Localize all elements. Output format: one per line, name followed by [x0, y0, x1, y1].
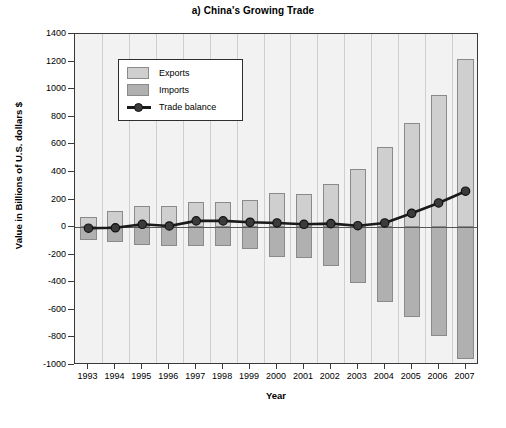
- legend-item-exports: Exports: [127, 65, 239, 81]
- bar-export: [269, 193, 285, 227]
- bar-import: [161, 227, 177, 246]
- bar-export: [431, 95, 447, 227]
- bar-import: [107, 227, 123, 242]
- bar-import: [296, 227, 312, 258]
- bar-export: [242, 200, 258, 227]
- x-tick-mark: [276, 364, 277, 369]
- x-tick-mark: [195, 364, 196, 369]
- y-axis-tick-labels: 1400120010008006004002000-200-400-600-80…: [28, 0, 66, 428]
- x-tick-mark: [168, 364, 169, 369]
- x-tick-mark: [249, 364, 250, 369]
- bar-import: [431, 227, 447, 336]
- bar-export: [350, 169, 366, 227]
- y-tick-mark: [68, 364, 74, 365]
- bar-export: [134, 206, 150, 227]
- y-tick-label: 1200: [32, 56, 66, 65]
- x-tick-mark: [384, 364, 385, 369]
- bar-export: [323, 184, 339, 227]
- legend-swatch-imports-icon: [127, 84, 149, 96]
- y-tick-label: 800: [32, 111, 66, 120]
- gridline-vertical: [452, 34, 453, 363]
- y-tick-label: 0: [32, 222, 66, 231]
- y-tick-label: 1000: [32, 84, 66, 93]
- x-tick-label: 2007: [445, 372, 485, 381]
- y-tick-label: 200: [32, 194, 66, 203]
- bar-import: [215, 227, 231, 246]
- bar-import: [404, 227, 420, 317]
- bar-export: [80, 217, 96, 227]
- bar-import: [134, 227, 150, 245]
- legend: Exports Imports Trade balance: [118, 59, 243, 121]
- x-tick-mark: [357, 364, 358, 369]
- x-tick-mark: [438, 364, 439, 369]
- y-tick-label: -600: [32, 304, 66, 313]
- y-tick-label: 1400: [32, 29, 66, 38]
- bar-export: [296, 194, 312, 227]
- y-tick-label: -1000: [32, 360, 66, 369]
- x-tick-mark: [303, 364, 304, 369]
- bar-import: [377, 227, 393, 302]
- bar-export: [161, 206, 177, 227]
- bar-import: [242, 227, 258, 249]
- y-axis-title: Value in Billions of U.S. dollars $: [13, 76, 24, 276]
- gridline-vertical: [317, 34, 318, 363]
- x-tick-mark: [141, 364, 142, 369]
- gridline-vertical: [290, 34, 291, 363]
- bar-export: [377, 147, 393, 227]
- legend-item-trade-balance: Trade balance: [127, 99, 239, 115]
- chart-root: a) China's Growing Trade Value in Billio…: [0, 0, 506, 428]
- chart-title: a) China's Growing Trade: [0, 5, 506, 16]
- x-tick-mark: [411, 364, 412, 369]
- bar-import: [350, 227, 366, 283]
- gridline-vertical: [264, 34, 265, 363]
- x-tick-mark: [222, 364, 223, 369]
- x-axis-title: Year: [74, 390, 478, 401]
- y-tick-label: 600: [32, 139, 66, 148]
- gridline-vertical: [398, 34, 399, 363]
- gridline-vertical: [344, 34, 345, 363]
- gridline-vertical: [425, 34, 426, 363]
- bar-export: [404, 123, 420, 227]
- bar-export: [457, 59, 473, 227]
- y-tick-label: 400: [32, 166, 66, 175]
- bar-import: [269, 227, 285, 257]
- bar-export: [215, 202, 231, 228]
- y-tick-label: -200: [32, 249, 66, 258]
- bar-import: [457, 227, 473, 359]
- x-tick-mark: [465, 364, 466, 369]
- bar-import: [80, 227, 96, 240]
- bar-import: [323, 227, 339, 266]
- legend-label-imports: Imports: [159, 85, 189, 96]
- x-tick-mark: [330, 364, 331, 369]
- gridline-vertical: [102, 34, 103, 363]
- legend-label-exports: Exports: [159, 68, 190, 79]
- y-tick-label: -400: [32, 277, 66, 286]
- legend-swatch-exports-icon: [127, 67, 149, 79]
- bar-export: [188, 202, 204, 228]
- bar-export: [107, 211, 123, 228]
- x-tick-mark: [114, 364, 115, 369]
- legend-item-imports: Imports: [127, 82, 239, 98]
- x-tick-mark: [87, 364, 88, 369]
- bar-import: [188, 227, 204, 246]
- gridline-vertical: [371, 34, 372, 363]
- y-tick-label: -800: [32, 332, 66, 341]
- legend-label-trade-balance: Trade balance: [159, 102, 216, 113]
- legend-marker-circle-icon: [134, 103, 143, 112]
- zero-baseline: [75, 227, 477, 228]
